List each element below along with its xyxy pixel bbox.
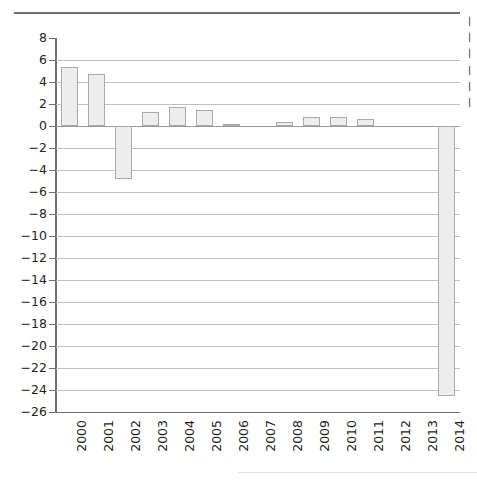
y-tick — [49, 214, 55, 215]
x-axis-tick-label: 2008 — [291, 420, 304, 452]
y-axis-tick-label: −6 — [3, 186, 47, 199]
legend-entry: | — [468, 16, 477, 27]
y-axis-tick-label: −20 — [3, 340, 47, 353]
gridline-neg18 — [56, 324, 460, 325]
y-tick — [49, 346, 55, 347]
y-axis-tick-label: −24 — [3, 384, 47, 397]
x-axis-tick-label: 2009 — [318, 420, 331, 452]
legend-cropped: |||||| — [468, 16, 477, 108]
gridline-neg14 — [56, 280, 460, 281]
y-tick — [49, 82, 55, 83]
y-axis-labels: 86420−2−4−6−8−10−12−14−16−18−20−22−24−26 — [0, 0, 47, 483]
y-tick — [49, 390, 55, 391]
y-tick — [49, 280, 55, 281]
bar-2000 — [61, 67, 78, 126]
bar-2011 — [357, 119, 374, 126]
plot-area — [56, 38, 460, 412]
x-axis-tick-label: 2003 — [156, 420, 169, 452]
legend-entry: | — [468, 48, 477, 59]
gridline-neg22 — [56, 368, 460, 369]
gridline-neg24 — [56, 390, 460, 391]
x-axis-tick-label: 2004 — [183, 420, 196, 452]
y-tick — [49, 302, 55, 303]
y-tick — [49, 104, 55, 105]
gridline-neg20 — [56, 346, 460, 347]
bar-2003 — [142, 112, 159, 126]
y-tick — [49, 412, 55, 413]
bar-2005 — [196, 110, 213, 126]
y-axis-tick-label: −2 — [3, 142, 47, 155]
x-axis-tick-label: 2011 — [372, 420, 385, 452]
y-axis-tick-label: −26 — [3, 406, 47, 419]
x-axis-tick-label: 2014 — [453, 420, 466, 452]
x-axis-tick-label: 2012 — [399, 420, 412, 452]
bar-2014 — [438, 126, 455, 396]
bottom-divider-rule — [238, 472, 477, 473]
bar-2008 — [276, 122, 293, 126]
bar-2002 — [115, 126, 132, 179]
gridline-neg26 — [56, 412, 460, 413]
x-axis-tick-label: 2007 — [264, 420, 277, 452]
y-axis-tick-label: 0 — [3, 120, 47, 133]
x-axis-tick-label: 2002 — [129, 420, 142, 452]
y-tick — [49, 324, 55, 325]
y-axis-tick-label: −14 — [3, 274, 47, 287]
y-tick — [49, 258, 55, 259]
legend-entry: | — [468, 97, 477, 108]
bar-2006 — [223, 124, 240, 126]
x-axis-tick-label: 2000 — [75, 420, 88, 452]
x-axis-tick-label: 2010 — [345, 420, 358, 452]
y-axis-tick-label: −18 — [3, 318, 47, 331]
y-axis-tick-label: 2 — [3, 98, 47, 111]
y-axis-tick-label: −16 — [3, 296, 47, 309]
y-tick — [49, 126, 55, 127]
bar-chart: 86420−2−4−6−8−10−12−14−16−18−20−22−24−26… — [0, 0, 477, 483]
gridline-neg12 — [56, 258, 460, 259]
x-axis-tick-label: 2006 — [237, 420, 250, 452]
y-axis-tick-label: −4 — [3, 164, 47, 177]
y-tick — [49, 38, 55, 39]
bar-2010 — [330, 117, 347, 126]
y-axis-tick-label: −22 — [3, 362, 47, 375]
y-tick — [49, 148, 55, 149]
gridline-4 — [56, 82, 460, 83]
gridline-6 — [56, 60, 460, 61]
legend-entry: | — [468, 32, 477, 43]
bar-2001 — [88, 74, 105, 126]
y-tick — [49, 236, 55, 237]
y-axis-tick-label: 6 — [3, 54, 47, 67]
x-axis-labels: 2000200120022003200420052006200720082009… — [56, 414, 460, 480]
gridline-neg16 — [56, 302, 460, 303]
bar-2004 — [169, 107, 186, 126]
y-tick — [49, 368, 55, 369]
y-tick — [49, 60, 55, 61]
x-axis-tick-label: 2001 — [102, 420, 115, 452]
y-tick — [49, 192, 55, 193]
gridline-2 — [56, 104, 460, 105]
y-tick — [49, 170, 55, 171]
legend-entry: | — [468, 81, 477, 92]
gridline-neg6 — [56, 192, 460, 193]
legend-entry: | — [468, 65, 477, 76]
x-axis-tick-label: 2013 — [426, 420, 439, 452]
bar-2009 — [303, 117, 320, 126]
x-axis-tick-label: 2005 — [210, 420, 223, 452]
y-axis-tick-label: −12 — [3, 252, 47, 265]
top-divider-rule — [14, 12, 460, 14]
gridline-neg8 — [56, 214, 460, 215]
y-axis-tick-label: −10 — [3, 230, 47, 243]
gridline-neg10 — [56, 236, 460, 237]
y-axis-tick-label: 8 — [3, 32, 47, 45]
y-axis-tick-label: −8 — [3, 208, 47, 221]
y-axis-tick-label: 4 — [3, 76, 47, 89]
